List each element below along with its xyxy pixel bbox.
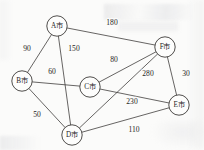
- edge-weight-c-f: 80: [110, 55, 118, 64]
- graph-node-a[interactable]: A市: [47, 16, 67, 36]
- edge-weight-b-d: 50: [33, 110, 41, 119]
- edge-weight-f-e: 30: [182, 69, 190, 78]
- graph-edge-d-e: [82, 108, 169, 133]
- edge-weight-d-f: 280: [142, 69, 154, 78]
- graph-edge-b-d: [29, 88, 65, 127]
- edge-weight-a-b: 90: [23, 44, 31, 53]
- graph-figure: A市B市C市D市E市F市 180180909015015060605050808…: [0, 0, 204, 150]
- graph-edge-b-c: [32, 82, 80, 86]
- edge-weight-c-e: 230: [126, 97, 138, 106]
- edge-weight-b-c: 60: [48, 67, 56, 76]
- edge-layer: [27, 28, 176, 132]
- node-label-b: B市: [16, 76, 28, 85]
- node-label-d: D市: [66, 130, 78, 139]
- edge-weight-a-f: 180: [106, 18, 118, 27]
- node-label-f: F市: [160, 42, 171, 51]
- node-label-c: C市: [84, 82, 96, 91]
- graph-node-e[interactable]: E市: [169, 95, 189, 115]
- edge-weight-d-e: 110: [128, 125, 139, 134]
- graph-node-b[interactable]: B市: [12, 71, 32, 91]
- edge-weight-a-d: 150: [68, 44, 80, 53]
- edge-weight-layer: 1801809090150150606050508080230230280280…: [23, 18, 190, 134]
- graph-edge-f-e: [167, 57, 176, 95]
- graph-node-c[interactable]: C市: [80, 77, 100, 97]
- graph-node-f[interactable]: F市: [155, 37, 175, 57]
- graph-canvas: A市B市C市D市E市F市 180180909015015060605050808…: [0, 0, 204, 150]
- graph-edge-c-f: [99, 52, 156, 82]
- node-label-a: A市: [51, 21, 63, 30]
- node-label-e: E市: [174, 100, 185, 109]
- graph-node-d[interactable]: D市: [62, 125, 82, 145]
- node-layer: A市B市C市D市E市F市: [12, 16, 189, 145]
- graph-edge-a-f: [67, 28, 155, 45]
